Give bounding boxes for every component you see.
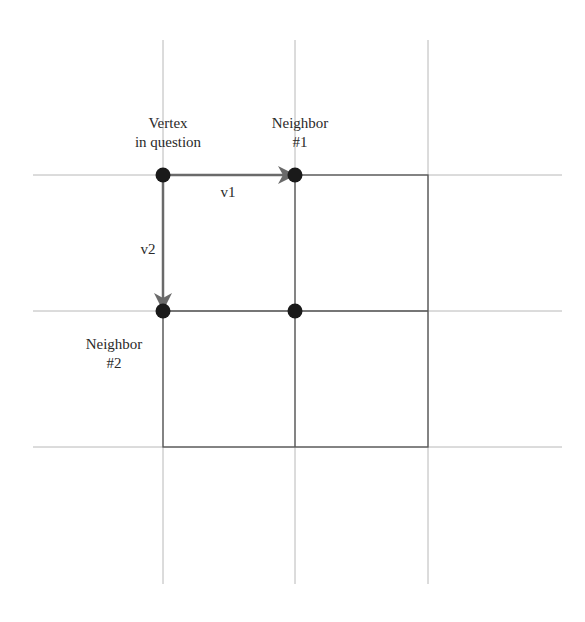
- label-v1: v1: [208, 183, 248, 202]
- node-diagonal: [288, 304, 303, 319]
- node-neighbor-1: [288, 168, 303, 183]
- label-v2: v2: [128, 240, 168, 259]
- label-neighbor-2: Neighbor #2: [76, 335, 152, 373]
- node-vertex: [156, 168, 171, 183]
- label-neighbor-1: Neighbor #1: [262, 114, 338, 152]
- node-neighbor-2: [156, 304, 171, 319]
- grid-diagram: [0, 0, 585, 622]
- label-vertex: Vertex in question: [113, 114, 223, 152]
